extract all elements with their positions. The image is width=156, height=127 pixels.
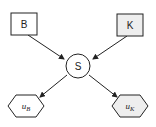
node-k[interactable]: K: [117, 14, 143, 36]
node-b-label: B: [21, 19, 28, 30]
edge-s-to-ub: [40, 75, 67, 97]
influence-diagram: B K S uB uK: [0, 0, 156, 127]
node-s-label: S: [75, 61, 82, 72]
node-b[interactable]: B: [11, 13, 37, 35]
node-s[interactable]: S: [66, 54, 90, 78]
edge-k-to-s: [93, 36, 127, 59]
node-uk[interactable]: uK: [112, 95, 148, 117]
edge-s-to-uk: [89, 75, 117, 97]
node-ub[interactable]: uB: [8, 95, 44, 117]
edge-b-to-s: [28, 35, 64, 59]
node-k-label: K: [127, 20, 134, 31]
